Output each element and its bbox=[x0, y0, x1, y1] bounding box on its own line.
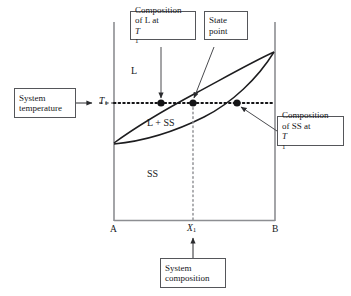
callout-system-composition-line2: composition bbox=[165, 273, 210, 284]
callout-composition-of-L-line1: Composition bbox=[135, 5, 182, 16]
axis-tick-composition: X1 bbox=[187, 223, 196, 234]
phase-diagram-figure: Composition of L at T1 State point Syste… bbox=[0, 0, 351, 296]
callout-system-composition: System composition bbox=[160, 258, 226, 288]
callout-system-composition-line1: System bbox=[165, 263, 192, 274]
callout-composition-of-SS: Composition of SS at T1 bbox=[277, 116, 344, 146]
callout-system-temperature-line1: System bbox=[19, 93, 46, 104]
leader-state-point bbox=[194, 47, 214, 98]
callout-composition-of-SS-line1: Composition bbox=[282, 110, 329, 121]
region-label-two-phase: L + SS bbox=[147, 117, 175, 128]
axis-endpoint-A: A bbox=[110, 224, 117, 234]
callout-state-point-line1: State bbox=[209, 15, 227, 26]
temperature-symbol-ss: T bbox=[282, 131, 311, 142]
callout-state-point-line2: point bbox=[209, 26, 228, 37]
callout-composition-of-L: Composition of L at T1 bbox=[130, 11, 196, 40]
callout-composition-of-L-line2: of L at T1 bbox=[135, 15, 159, 47]
callout-system-temperature: System temperature bbox=[14, 88, 76, 118]
callout-system-temperature-line2: temperature bbox=[19, 103, 62, 114]
state-point bbox=[189, 99, 196, 106]
leader-composition-SS bbox=[241, 107, 277, 131]
callout-state-point: State point bbox=[204, 11, 248, 40]
axis-endpoint-B: B bbox=[272, 224, 278, 234]
temperature-subscript: 1 bbox=[135, 36, 159, 47]
solidus-point bbox=[233, 99, 240, 106]
callout-composition-of-SS-line2: of SS at T1 bbox=[282, 121, 311, 153]
temperature-symbol: T bbox=[135, 26, 159, 37]
liquidus-point bbox=[157, 99, 164, 106]
temperature-subscript-ss: 1 bbox=[282, 142, 311, 153]
region-label-solid-solution: SS bbox=[147, 168, 158, 179]
region-label-liquid: L bbox=[131, 65, 137, 76]
axis-tick-temperature: T1 bbox=[99, 96, 108, 107]
